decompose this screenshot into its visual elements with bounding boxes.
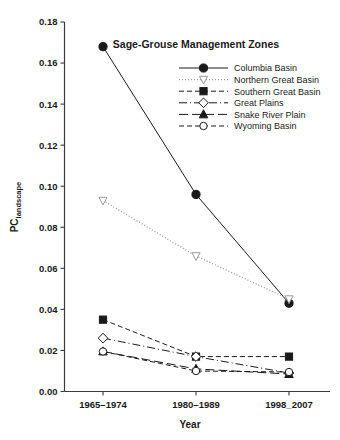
y-axis-title: PClandscape — [9, 182, 23, 233]
data-point-open-diamond — [98, 333, 108, 343]
legend-item-columbia-basin[interactable]: Columbia Basin — [179, 63, 297, 73]
legend-item-great-plains[interactable]: Great Plains — [179, 98, 284, 108]
chart-title: Sage-Grouse Management Zones — [113, 38, 279, 50]
x-axis-title: Year — [179, 419, 200, 430]
data-point-filled-square — [99, 316, 106, 323]
data-point-filled-triangle-up — [199, 110, 207, 118]
data-point-open-circle — [192, 367, 199, 374]
data-point-filled-square — [200, 88, 207, 95]
series-northern-great-basin — [99, 197, 293, 303]
data-point-open-triangle-down — [99, 197, 107, 205]
chart-figure: 0.000.020.040.060.080.100.120.140.160.18… — [0, 0, 340, 440]
legend-label: Southern Great Basin — [234, 87, 321, 97]
legend-label: Columbia Basin — [234, 63, 297, 73]
y-tick-label: 0.02 — [39, 345, 58, 356]
legend-item-southern-great-basin[interactable]: Southern Great Basin — [179, 87, 321, 97]
data-point-open-circle — [285, 368, 292, 375]
legend-item-wyoming-basin[interactable]: Wyoming Basin — [179, 121, 296, 131]
data-point-filled-circle — [99, 43, 107, 51]
legend-label: Northern Great Basin — [234, 75, 319, 85]
y-axis-tick-labels: 0.000.020.040.060.080.100.120.140.160.18 — [39, 16, 58, 397]
line-chart: 0.000.020.040.060.080.100.120.140.160.18… — [0, 0, 340, 440]
data-point-filled-circle — [199, 64, 207, 72]
y-tick-label: 0.10 — [39, 181, 58, 192]
series-line — [103, 201, 289, 300]
legend-label: Great Plains — [234, 98, 284, 108]
y-tick-label: 0.14 — [39, 99, 58, 110]
legend-item-snake-river-plain[interactable]: Snake River Plain — [179, 110, 306, 120]
legend-label: Wyoming Basin — [234, 121, 296, 131]
series-line — [103, 320, 289, 357]
legend-item-northern-great-basin[interactable]: Northern Great Basin — [179, 75, 319, 85]
y-axis-title-base: PC — [9, 218, 20, 232]
svg-text:PClandscape: PClandscape — [9, 182, 23, 233]
x-tick-label: 1998_2007 — [265, 399, 313, 410]
data-point-open-diamond — [199, 98, 209, 108]
y-tick-label: 0.06 — [39, 263, 58, 274]
y-tick-label: 0.18 — [39, 16, 58, 27]
data-point-filled-square — [285, 353, 292, 360]
series-line — [103, 47, 289, 304]
y-tick-label: 0.12 — [39, 140, 58, 151]
x-tick-label: 1965–1974 — [79, 399, 127, 410]
data-point-open-circle — [200, 122, 207, 129]
x-axis-tick-labels: 1965–19741980–19891998_2007 — [79, 399, 313, 410]
data-point-open-circle — [99, 348, 106, 355]
y-axis-title-subscript: landscape — [14, 182, 23, 219]
chart-legend: Columbia BasinNorthern Great BasinSouthe… — [179, 63, 321, 131]
y-tick-label: 0.16 — [39, 57, 58, 68]
data-point-open-triangle-down — [192, 253, 200, 261]
y-tick-label: 0.08 — [39, 222, 58, 233]
y-tick-label: 0.04 — [39, 304, 58, 315]
x-tick-label: 1980–1989 — [172, 399, 220, 410]
legend-label: Snake River Plain — [234, 110, 306, 120]
data-point-filled-circle — [192, 190, 200, 198]
y-tick-label: 0.00 — [39, 386, 58, 397]
